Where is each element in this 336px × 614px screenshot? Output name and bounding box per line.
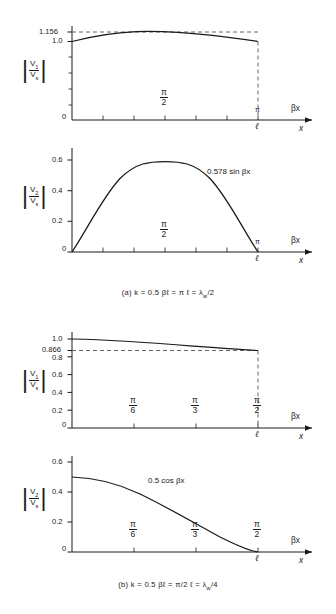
- abs-bar-right: |: [40, 188, 46, 205]
- y-tick-label-02: 0.2: [52, 406, 63, 415]
- caption-b: (b) k = 0.5 βℓ = π/2 ℓ = λw/4: [0, 580, 336, 591]
- x-axis-arrowhead: [305, 117, 312, 122]
- curve-v1-over-vs-a: [72, 31, 258, 41]
- x-tick-label-pi-over-2: π 2: [159, 88, 169, 106]
- y-tick-label-10: 1.0: [52, 334, 63, 343]
- chart-panel-a-bottom: | V2 Vs | 0.6 0.4 0.2 0 π 2 π ℓ 0.578 si…: [0, 140, 336, 280]
- figure-container: | V1 Vs | 1.156 1.0 0 π 2 π ℓ βx x: [0, 0, 336, 614]
- y-tick-label-06: 0.6: [52, 370, 63, 379]
- y-axis-label-b-top: | V1 Vs |: [22, 370, 46, 391]
- fraction-numerator: V1: [29, 60, 39, 70]
- y-tick-label-0: 0: [62, 420, 66, 429]
- x-axis-name-betax: βx: [291, 535, 300, 545]
- abs-bar-left: |: [22, 62, 28, 79]
- y-axis-label-a-bottom: | V2 Vs |: [22, 186, 46, 207]
- fraction-denominator: Vs: [29, 196, 39, 207]
- chart-panel-a-top: | V1 Vs | 1.156 1.0 0 π 2 π ℓ βx x: [0, 0, 336, 140]
- x-axis-arrowhead: [305, 249, 312, 254]
- y-tick-label-04: 0.4: [52, 487, 63, 496]
- chart-a-bottom-svg: [0, 140, 336, 280]
- x-tick-label-pi-over-2: π 2: [252, 520, 262, 538]
- fraction-v1-vs: V1 Vs: [29, 370, 39, 391]
- y-tick-label-02: 0.2: [52, 517, 63, 526]
- y-tick-label-08: 0.8: [52, 353, 63, 362]
- caption-b-tail: /4: [211, 580, 218, 589]
- fraction-denominator: Vs: [29, 70, 39, 81]
- chart-panel-b-top: | V1 Vs | 1.0 0.866 0.8 0.6 0.4 0.2 0 π …: [0, 328, 336, 456]
- x-axis-name-betax: βx: [291, 411, 300, 421]
- fraction-denominator: Vs: [29, 380, 39, 391]
- x-tick-label-pi: π: [255, 106, 260, 113]
- curve-05-cos-betax: [72, 477, 258, 552]
- x-axis-name-x: x: [299, 555, 303, 565]
- x-axis-name-betax: βx: [291, 103, 300, 113]
- caption-a: (a) k = 0.5 βℓ = π ℓ = λw/2: [0, 288, 336, 299]
- y-tick-label-04: 0.4: [52, 388, 63, 397]
- fraction-denominator: Vs: [29, 498, 39, 509]
- abs-bar-left: |: [22, 490, 28, 507]
- abs-bar-left: |: [22, 372, 28, 389]
- x-tick-label-pi-over-3: π 3: [190, 396, 200, 414]
- curve-v1-over-vs-b: [72, 339, 258, 351]
- y-axis-label-b-bottom: | V2 Vs |: [22, 488, 46, 509]
- x-tick-label-ell: ℓ: [255, 429, 259, 439]
- fraction-v2-vs: V2 Vs: [29, 186, 39, 207]
- y-tick-label-0: 0: [62, 244, 66, 253]
- x-axis-name-betax: βx: [291, 235, 300, 245]
- caption-a-tail: /2: [207, 288, 214, 297]
- x-tick-label-ell: ℓ: [255, 253, 259, 263]
- curve-label-sine: 0.578 sin βx: [207, 167, 250, 176]
- x-axis-name-x: x: [299, 431, 303, 441]
- abs-bar-left: |: [22, 188, 28, 205]
- x-axis-arrowhead: [305, 549, 312, 554]
- fraction-v2-vs: V2 Vs: [29, 488, 39, 509]
- y-tick-label-06: 0.6: [52, 457, 63, 466]
- y-tick-label-04: 0.4: [52, 186, 63, 195]
- y-tick-label-10: 1.0: [52, 36, 63, 45]
- x-axis-arrowhead: [305, 425, 312, 430]
- chart-panel-b-bottom: | V2 Vs | 0.6 0.4 0.2 0 π 6 π 3 π 2 ℓ 0.…: [0, 452, 336, 580]
- x-axis-name-x: x: [299, 123, 303, 133]
- x-tick-label-pi-over-6: π 6: [128, 396, 138, 414]
- x-tick-label-pi: π: [255, 238, 260, 245]
- x-tick-label-ell: ℓ: [255, 553, 259, 563]
- x-axis-name-x: x: [299, 255, 303, 265]
- abs-bar-right: |: [40, 490, 46, 507]
- x-tick-label-pi-over-6: π 6: [128, 520, 138, 538]
- y-tick-label-1156: 1.156: [39, 27, 58, 36]
- x-tick-label-pi-over-2: π 2: [252, 396, 262, 414]
- y-axis-label-a-top: | V1 Vs |: [22, 60, 46, 81]
- x-tick-label-ell: ℓ: [255, 121, 259, 131]
- y-tick-label-06: 0.6: [52, 155, 63, 164]
- caption-b-text: (b) k = 0.5 βℓ = π/2 ℓ = λ: [118, 580, 206, 589]
- caption-a-text: (a) k = 0.5 βℓ = π ℓ = λ: [122, 288, 203, 297]
- fraction-numerator: V2: [29, 488, 39, 498]
- fraction-numerator: V1: [29, 370, 39, 380]
- fraction-v1-vs: V1 Vs: [29, 60, 39, 81]
- chart-a-top-svg: [0, 0, 336, 140]
- y-tick-label-0: 0: [62, 544, 66, 553]
- x-tick-label-pi-over-2: π 2: [159, 220, 169, 238]
- abs-bar-right: |: [40, 62, 46, 79]
- y-tick-label-0: 0: [62, 112, 66, 121]
- x-tick-label-pi-over-3: π 3: [190, 520, 200, 538]
- fraction-numerator: V2: [29, 186, 39, 196]
- y-tick-label-02: 0.2: [52, 216, 63, 225]
- abs-bar-right: |: [40, 372, 46, 389]
- curve-label-cosine: 0.5 cos βx: [148, 476, 185, 485]
- chart-b-bottom-svg: [0, 452, 336, 580]
